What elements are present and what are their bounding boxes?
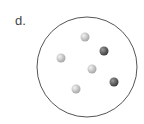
light-particle [81,33,90,42]
dark-particle [110,78,119,87]
light-particle [72,85,81,94]
particle-diagram [0,0,144,124]
dark-particle [100,47,109,56]
light-particle [57,54,66,63]
light-particle [88,65,97,74]
container-circle [37,17,137,117]
particles-group [57,33,119,94]
